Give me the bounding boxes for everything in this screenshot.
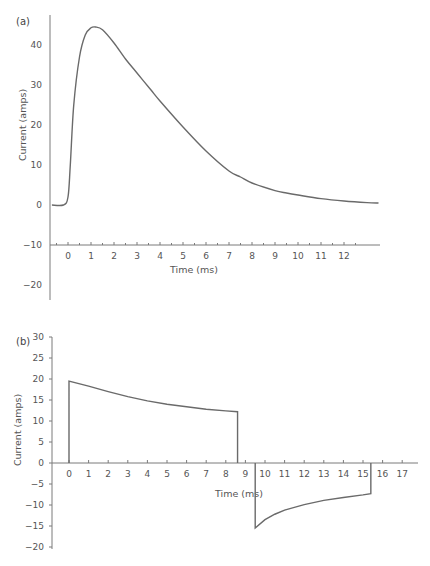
x-tick-label: 1 xyxy=(88,251,94,261)
y-tick-label: 30 xyxy=(31,80,43,90)
chart-a-x-axis: 0123456789101112 xyxy=(50,242,380,261)
y-tick-label: 15 xyxy=(33,395,44,405)
y-tick-label: 0 xyxy=(36,200,42,210)
y-tick-label: 10 xyxy=(33,416,45,426)
x-tick-label: 0 xyxy=(65,251,71,261)
x-tick-label: 2 xyxy=(111,251,117,261)
chart-b-series xyxy=(69,381,371,528)
y-tick-label: 10 xyxy=(31,160,43,170)
y-tick-label: −20 xyxy=(25,542,44,552)
x-tick-label: 6 xyxy=(184,469,190,479)
chart-b-ylabel: Current (amps) xyxy=(12,394,23,466)
x-tick-label: 13 xyxy=(318,469,329,479)
y-tick-label: 0 xyxy=(38,458,44,468)
x-tick-label: 12 xyxy=(298,469,309,479)
y-tick-label: 40 xyxy=(31,40,43,50)
x-tick-label: 15 xyxy=(357,469,368,479)
chart-b-x-axis: 01234567891011121314151617 xyxy=(52,460,418,479)
y-tick-label: 20 xyxy=(31,120,43,130)
figure: (a) 403020100−10−20 0123456789101112 Cur… xyxy=(0,0,430,566)
y-tick-label: −5 xyxy=(31,479,44,489)
chart-a-series xyxy=(52,27,379,206)
panel-label-a: (a) xyxy=(16,16,30,27)
y-tick-label: 30 xyxy=(33,332,45,342)
chart-a-ylabel: Current (amps) xyxy=(17,89,28,161)
x-tick-label: 11 xyxy=(279,469,290,479)
data-series-positive-pulse xyxy=(69,381,238,463)
chart-b: (b) 302520151050−5−10−15−20 012345678910… xyxy=(12,332,418,552)
x-tick-label: 16 xyxy=(377,469,389,479)
y-tick-label: −15 xyxy=(25,521,44,531)
panel-label-b: (b) xyxy=(16,336,30,347)
data-series-current xyxy=(52,27,379,206)
x-tick-label: 8 xyxy=(223,469,229,479)
x-tick-label: 5 xyxy=(180,251,186,261)
x-tick-label: 11 xyxy=(315,251,326,261)
x-tick-label: 6 xyxy=(203,251,209,261)
x-tick-label: 10 xyxy=(259,469,271,479)
x-tick-label: 1 xyxy=(86,469,92,479)
y-tick-label: −10 xyxy=(25,500,44,510)
x-tick-label: 7 xyxy=(203,469,209,479)
chart-a: (a) 403020100−10−20 0123456789101112 Cur… xyxy=(16,15,380,300)
x-tick-label: 10 xyxy=(292,251,304,261)
x-tick-label: 7 xyxy=(226,251,232,261)
x-tick-label: 0 xyxy=(66,469,72,479)
y-tick-label: 5 xyxy=(38,437,44,447)
y-tick-label: 25 xyxy=(33,353,44,363)
chart-a-xlabel: Time (ms) xyxy=(169,264,218,275)
x-tick-label: 4 xyxy=(145,469,151,479)
x-tick-label: 5 xyxy=(164,469,170,479)
x-tick-label: 3 xyxy=(125,469,131,479)
x-tick-label: 4 xyxy=(157,251,163,261)
x-tick-label: 12 xyxy=(338,251,349,261)
x-tick-label: 17 xyxy=(396,469,407,479)
y-tick-label: −10 xyxy=(23,240,42,250)
x-tick-label: 2 xyxy=(105,469,111,479)
y-tick-label: −20 xyxy=(23,280,42,290)
x-tick-label: 8 xyxy=(249,251,255,261)
data-series-negative-pulse xyxy=(255,463,371,528)
chart-b-y-axis: 302520151050−5−10−15−20 xyxy=(25,332,52,552)
x-tick-label: 9 xyxy=(272,251,278,261)
x-tick-label: 9 xyxy=(243,469,249,479)
x-tick-label: 14 xyxy=(338,469,350,479)
y-tick-label: 20 xyxy=(33,374,45,384)
x-tick-label: 3 xyxy=(134,251,140,261)
